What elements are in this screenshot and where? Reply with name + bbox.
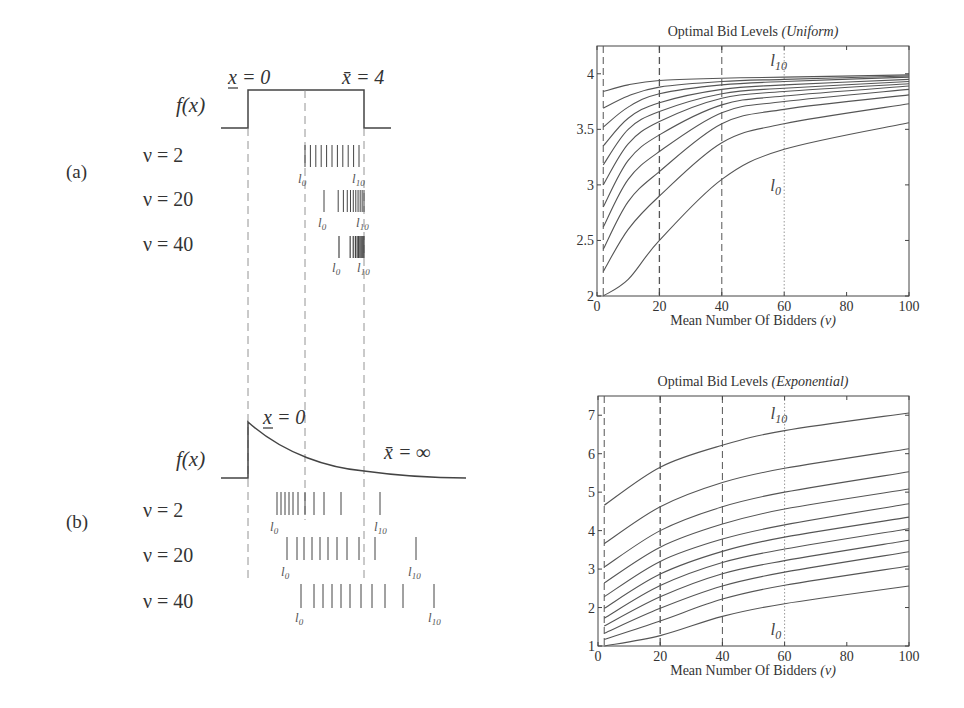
bid-ticks-uniform [305, 145, 364, 258]
panel-a-x-low-label: x = 0 [227, 66, 270, 88]
tick-labels-exponential: l0 l10 l0 l10 l0 l10 [270, 519, 441, 627]
chart-title: Optimal Bid Levels (Uniform) [668, 24, 839, 40]
y-tick-label: 2.5 [577, 233, 595, 248]
panel-b-x-high-label: x̄ = ∞ [383, 441, 431, 463]
x-tick-label: 100 [899, 649, 920, 664]
series-line-l6 [604, 504, 909, 597]
figure-canvas: (a) f(x) x = 0 x̄ = 4 ν = 2 ν = 20 ν = 4… [0, 0, 964, 708]
annotation-l0: l0 [771, 620, 782, 642]
annotation-l0: l0 [770, 176, 781, 198]
x-tick-label: 60 [778, 649, 792, 664]
tick-labels-uniform: l0 l10 l0 l10 l0 l10 [298, 171, 370, 277]
y-tick-label: 3 [587, 178, 594, 193]
x-tick-label: 20 [653, 649, 667, 664]
row-label-v40: ν = 40 [143, 233, 193, 255]
x-tick-label: 60 [777, 299, 791, 314]
l10-label: l10 [352, 171, 365, 188]
row-label-v20: ν = 20 [143, 544, 193, 566]
y-tick-label: 2 [588, 601, 595, 616]
x-tick-label: 0 [594, 299, 601, 314]
panel-b-f-label: f(x) [176, 447, 205, 471]
y-tick-label: 3 [588, 562, 595, 577]
panel-a-label: (a) [66, 161, 87, 183]
chart-exponential: Optimal Bid Levels (Exponential) Mean Nu… [588, 374, 920, 679]
y-tick-label: 2 [587, 289, 594, 304]
panel-b-label: (b) [66, 511, 88, 533]
row-label-v40: ν = 40 [143, 590, 193, 612]
plot-area: 02040608010022.533.54l10l0 [577, 46, 920, 314]
l10-label: l10 [356, 215, 369, 232]
x-axis-label: Mean Number Of Bidders (v) [670, 663, 836, 679]
row-label-v2: ν = 2 [143, 499, 183, 521]
bid-ticks-exponential [277, 492, 434, 608]
x-axis-label: Mean Number Of Bidders (v) [670, 313, 836, 329]
panel-b: (b) f(x) x = 0 x̄ = ∞ ν = 2 ν = 20 ν = 4… [66, 406, 466, 627]
axes-frame [598, 396, 909, 646]
panel-a-f-label: f(x) [176, 93, 205, 117]
x-tick-label: 80 [840, 649, 854, 664]
annotation-l10: l10 [770, 51, 787, 73]
l10-label: l10 [408, 564, 421, 581]
y-tick-label: 3.5 [577, 122, 595, 137]
series-line-l0 [603, 123, 909, 296]
panel-a: (a) f(x) x = 0 x̄ = 4 ν = 2 ν = 20 ν = 4… [66, 66, 391, 580]
row-label-v20: ν = 20 [143, 188, 193, 210]
x-tick-label: 80 [840, 299, 854, 314]
l10-label: l10 [374, 519, 387, 536]
chart-title: Optimal Bid Levels (Exponential) [658, 374, 849, 390]
y-tick-label: 4 [588, 524, 595, 539]
x-tick-label: 0 [595, 649, 602, 664]
series-line-l1 [604, 566, 909, 639]
y-tick-label: 1 [588, 639, 595, 654]
y-tick-label: 7 [588, 408, 595, 423]
l0-label: l0 [281, 564, 290, 581]
series-line-l2 [603, 95, 909, 249]
series-line-l8 [603, 77, 909, 127]
y-tick-label: 5 [588, 485, 595, 500]
series-line-l10 [604, 413, 909, 505]
l0-label: l0 [318, 215, 327, 232]
l10-label: l10 [428, 610, 441, 627]
series-line-l4 [604, 529, 909, 619]
l0-label: l0 [332, 260, 341, 277]
x-tick-label: 40 [715, 649, 729, 664]
series-line-l1 [603, 104, 909, 272]
l0-label: l0 [270, 519, 279, 536]
x-tick-label: 20 [652, 299, 666, 314]
series-line-l0 [604, 586, 909, 646]
l0-label: l0 [295, 610, 304, 627]
uniform-density-curve [221, 90, 391, 128]
x-tick-label: 100 [899, 299, 920, 314]
panel-b-x-low-label: x = 0 [262, 406, 305, 428]
panel-a-x-high-label: x̄ = 4 [341, 66, 384, 88]
plot-area: 0204060801001234567l10l0 [588, 396, 920, 664]
x-tick-label: 40 [715, 299, 729, 314]
y-tick-label: 6 [588, 447, 595, 462]
row-label-v2: ν = 2 [143, 144, 183, 166]
chart-uniform: Optimal Bid Levels (Uniform) Mean Number… [577, 24, 920, 329]
y-tick-label: 4 [587, 67, 594, 82]
